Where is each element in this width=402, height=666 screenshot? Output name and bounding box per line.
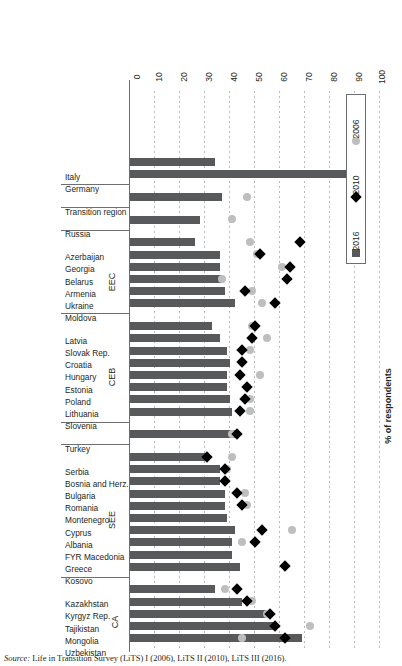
category-label: Germany [65,184,99,194]
chart-row [130,369,380,381]
bar-2016 [130,347,228,355]
bar-2016 [130,383,228,391]
marker-2010 [294,236,305,247]
chart-row [130,632,380,644]
marker-2010 [237,357,248,368]
bar-2016 [130,170,348,178]
bar-2016 [130,299,235,307]
marker-2010 [282,273,293,284]
rotated-chart-canvas: 0102030405060708090100 UzbekistanMongoli… [0,0,402,666]
bar-2016 [130,610,270,618]
bar-2016 [130,477,220,485]
chart-row [130,595,380,607]
marker-2006 [221,585,229,593]
category-label: Azerbaijan [65,252,104,262]
axis-tick-50: 50 [254,72,264,81]
marker-2006 [246,407,254,415]
category-label: Bulgaria [65,491,95,501]
chart-row [130,332,380,344]
bar-2016 [130,622,275,630]
source-prefix: Source: [4,653,30,663]
legend-item-2006: 2006 [347,95,365,151]
axis-tick-60: 60 [279,72,289,81]
chart-row [130,512,380,524]
category-label: Italy [65,172,80,182]
chart-row [130,583,380,595]
source-text: Life in Transition Survey (LiTS) I (2006… [32,653,286,663]
chart-row [130,285,380,297]
chart-row [130,463,380,475]
chart-row [130,168,380,180]
bar-2016 [130,551,233,559]
category-label: Hungary [65,373,96,383]
bar-2016 [130,408,233,416]
category-label: Russia [65,230,90,240]
bar-2016 [130,371,228,379]
marker-2006 [246,238,254,246]
axis-tick-10: 10 [154,72,164,81]
category-label: Armenia [65,289,96,299]
category-label: Greece [65,564,92,574]
category-label: Ukraine [65,301,94,311]
axis-tick-90: 90 [354,72,364,81]
bar-2016 [130,634,303,642]
bar-2016 [130,490,225,498]
marker-2006 [306,622,314,630]
chart-row [130,320,380,332]
marker-2006 [229,215,237,223]
category-label: Turkey [65,444,90,454]
bar-2016 [130,453,205,461]
marker-2006 [219,275,227,283]
bar-2016 [130,514,228,522]
chart-row [130,381,380,393]
legend-item-2016: 2016 [347,207,365,263]
category-label: Romania [65,503,98,513]
axis-tick-80: 80 [329,72,339,81]
axis-tick-100: 100 [377,70,387,84]
marker-2010 [232,583,243,594]
category-label: Poland [65,397,91,407]
category-label: Slovak Rep. [65,348,110,358]
chart-row [130,620,380,632]
chart-row [130,499,380,511]
category-label: FYR Macedonia [65,552,125,562]
chart-row [130,213,380,225]
chart-row [130,487,380,499]
marker-2006 [239,634,247,642]
chart-row [130,297,380,309]
plot-area: 0102030405060708090100 [130,88,380,648]
chart-row [130,393,380,405]
bar-2016 [130,193,223,201]
marker-2006 [264,334,272,342]
bar-2016 [130,275,223,283]
category-label: Tajikistan [65,624,99,634]
axis-tick-30: 30 [204,72,214,81]
marker-2010 [219,475,230,486]
marker-2010 [234,406,245,417]
category-label: Latvia [65,336,87,346]
bar-2016 [130,216,200,224]
category-label: Kosovo [65,577,93,587]
chart-row [130,156,380,168]
chart-row [130,260,380,272]
marker-2010 [249,536,260,547]
marker-2006 [289,526,297,534]
chart-row [130,405,380,417]
group-label-ca: CA [110,616,120,629]
figure-root: 0102030405060708090100 UzbekistanMongoli… [0,0,402,666]
chart-row [130,236,380,248]
marker-2010 [247,332,258,343]
bar-2016 [130,334,220,342]
chart-row [130,607,380,619]
marker-2006 [259,299,267,307]
bar-2016 [130,502,225,510]
chart-row [130,273,380,285]
category-label: Belarus [65,277,93,287]
bar-2016 [130,158,215,166]
bar-2016 [130,563,240,571]
axis-tick-40: 40 [229,72,239,81]
axis-tick-20: 20 [179,72,189,81]
bar-2016 [130,598,243,606]
category-label: Albania [65,540,93,550]
marker-2010 [234,369,245,380]
